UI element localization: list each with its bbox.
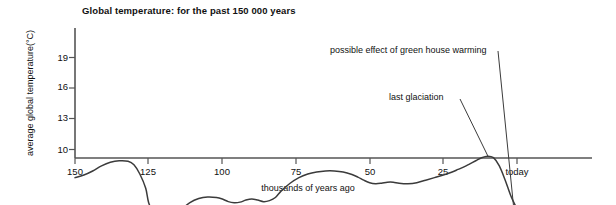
x-axis-ticks	[75, 158, 517, 164]
chart-plot-area	[0, 0, 616, 205]
greenhouse-warming-leader-line	[498, 51, 517, 205]
chart-figure: Global temperature: for the past 150 000…	[0, 0, 616, 205]
y-axis-ticks	[69, 58, 75, 150]
last-glaciation-leader-line	[460, 99, 488, 156]
